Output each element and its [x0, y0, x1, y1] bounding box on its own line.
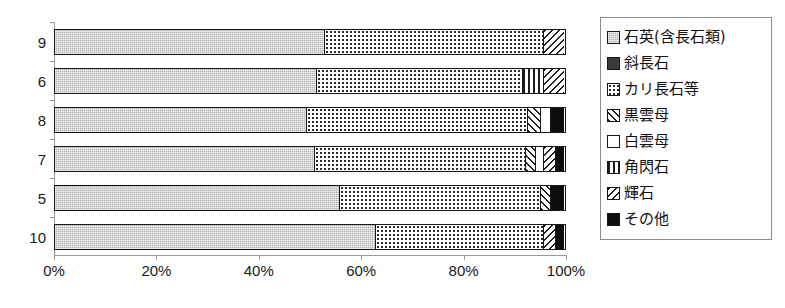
legend-item: カリ長石等 — [607, 76, 766, 102]
bar-segment — [55, 30, 325, 54]
bar-row — [54, 68, 566, 94]
bar-segment — [544, 69, 564, 93]
legend-label: 斜長石 — [624, 56, 669, 71]
y-tick-mark — [50, 217, 54, 218]
bar-segment — [551, 108, 564, 132]
bar-segment — [376, 225, 544, 249]
x-tick-mark — [464, 255, 465, 260]
legend-label: カリ長石等 — [624, 82, 699, 97]
y-tick-mark — [50, 61, 54, 62]
x-tick-label: 80% — [449, 262, 479, 279]
bar-segment — [544, 147, 557, 171]
legend-swatch-icon — [607, 187, 620, 200]
bar-segment — [544, 225, 557, 249]
y-tick-mark — [50, 22, 54, 23]
stacked-bar-chart: 0%20%40%60%80%100% 9687510 石英(含長石類)斜長石カリ… — [0, 0, 785, 308]
bar-segment — [340, 186, 541, 210]
bar-row — [54, 107, 566, 133]
legend-label: その他 — [624, 212, 669, 227]
bar-segment — [526, 147, 536, 171]
bar-segment — [556, 147, 564, 171]
legend-swatch-icon — [607, 135, 620, 148]
bar-segment — [523, 69, 543, 93]
bar-segment — [325, 30, 544, 54]
legend-swatch-icon — [607, 109, 620, 122]
legend-item: 石英(含長石類) — [607, 24, 766, 50]
bar-segment — [307, 108, 528, 132]
x-tick-label: 0% — [43, 262, 65, 279]
legend-swatch-icon — [607, 83, 620, 96]
bar-segment — [544, 30, 564, 54]
bar-segment — [536, 147, 544, 171]
x-tick-label: 20% — [141, 262, 171, 279]
y-tick-mark — [50, 139, 54, 140]
bar-segment — [317, 69, 523, 93]
x-tick-label: 100% — [547, 262, 585, 279]
x-tick-mark — [566, 255, 567, 260]
y-tick-label: 9 — [18, 33, 46, 50]
legend-item: その他 — [607, 206, 766, 232]
y-tick-label: 8 — [18, 111, 46, 128]
bar-segment — [556, 225, 564, 249]
x-tick-mark — [54, 255, 55, 260]
legend-swatch-icon — [607, 57, 620, 70]
x-tick-mark — [259, 255, 260, 260]
legend-item: 黒雲母 — [607, 102, 766, 128]
y-tick-label: 6 — [18, 72, 46, 89]
bar-row — [54, 185, 566, 211]
legend-label: 角閃石 — [624, 160, 669, 175]
bar-segment — [55, 186, 340, 210]
x-tick-mark — [361, 255, 362, 260]
bar-segment — [541, 108, 551, 132]
bar-row — [54, 146, 566, 172]
legend-swatch-icon — [607, 31, 620, 44]
bar-segment — [315, 147, 526, 171]
x-tick-label: 40% — [244, 262, 274, 279]
y-axis-line — [54, 22, 55, 256]
bar-segment — [551, 186, 564, 210]
y-tick-label: 7 — [18, 150, 46, 167]
legend: 石英(含長石類)斜長石カリ長石等黒雲母白雲母角閃石輝石その他 — [600, 17, 772, 240]
legend-label: 黒雲母 — [624, 108, 669, 123]
bar-row — [54, 224, 566, 250]
x-tick-label: 60% — [346, 262, 376, 279]
legend-swatch-icon — [607, 161, 620, 174]
y-tick-mark — [50, 178, 54, 179]
plot-area — [54, 22, 566, 256]
bar-segment — [55, 147, 315, 171]
bar-segment — [55, 225, 376, 249]
legend-item: 白雲母 — [607, 128, 766, 154]
bar-segment — [55, 108, 307, 132]
legend-item: 角閃石 — [607, 154, 766, 180]
bar-segment — [55, 69, 317, 93]
bar-row — [54, 29, 566, 55]
y-tick-label: 10 — [18, 228, 46, 245]
y-tick-label: 5 — [18, 189, 46, 206]
legend-swatch-icon — [607, 213, 620, 226]
legend-item: 斜長石 — [607, 50, 766, 76]
legend-item: 輝石 — [607, 180, 766, 206]
x-tick-mark — [156, 255, 157, 260]
bar-segment — [528, 108, 541, 132]
legend-label: 輝石 — [624, 186, 654, 201]
bar-segment — [541, 186, 551, 210]
y-tick-mark — [50, 100, 54, 101]
legend-label: 石英(含長石類) — [624, 30, 726, 45]
x-axis-line — [54, 255, 566, 256]
legend-label: 白雲母 — [624, 134, 669, 149]
